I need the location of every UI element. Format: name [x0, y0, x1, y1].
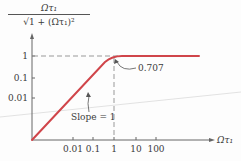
x-axis-arrow-icon	[209, 138, 215, 142]
annotation-0707: 0.707	[138, 63, 164, 73]
chart-figure: Ωτ₁ √1 + (Ωτ₁)² 1 0.1 0.01 0.01 0.1 1 10…	[0, 0, 241, 161]
annotation-leader-slope	[88, 96, 89, 112]
y-axis-arrow-icon	[30, 33, 34, 39]
y-label-numerator: Ωτ₁	[6, 3, 92, 14]
y-tick-label: 0.01	[2, 93, 28, 103]
x-tick-label: 100	[144, 144, 168, 154]
annotation-leader-0707	[117, 62, 136, 69]
annotation-arrow-icon	[86, 92, 91, 97]
background-artifact-line	[0, 92, 241, 117]
y-tick-label: 0.1	[2, 73, 28, 83]
annotation-slope: Slope = 1	[71, 112, 116, 122]
y-tick-label: 1	[2, 51, 28, 61]
y-axis-label: Ωτ₁ √1 + (Ωτ₁)²	[6, 3, 92, 27]
series-line	[32, 56, 199, 140]
x-tick-label: 1	[102, 144, 126, 154]
annotation-arrow-icon	[114, 59, 119, 64]
x-axis-label: Ωτ₁	[217, 135, 233, 145]
y-label-denominator: √1 + (Ωτ₁)²	[6, 15, 92, 27]
